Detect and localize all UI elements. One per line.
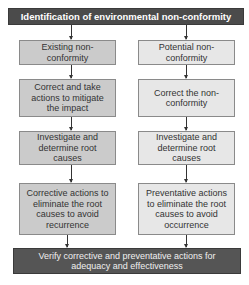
arrow-icon — [186, 65, 187, 78]
arrow-icon — [71, 165, 72, 182]
step-label: Investigate and determine root causes — [24, 132, 111, 164]
step-label: Corrective actions to eliminate the root… — [24, 188, 111, 230]
footer-verify: Verify corrective and preventative actio… — [13, 248, 241, 274]
box-correct-non-conformity: Correct the non-conformity — [138, 79, 235, 117]
box-existing-non-conformity: Existing non-conformity — [19, 40, 116, 65]
step-label: Potential non-conformity — [143, 42, 230, 63]
box-correct-mitigate: Correct and take actions to mitigate the… — [19, 79, 116, 117]
box-preventative-actions: Preventative actions to eliminate the ro… — [138, 183, 235, 235]
box-corrective-actions: Corrective actions to eliminate the root… — [19, 183, 116, 235]
box-potential-non-conformity: Potential non-conformity — [138, 40, 235, 65]
footer-text: Verify corrective and preventative actio… — [20, 251, 234, 271]
header-identification: Identification of environmental non-conf… — [8, 8, 244, 25]
arrow-icon — [67, 235, 68, 247]
arrow-icon — [186, 117, 187, 130]
step-label: Correct and take actions to mitigate the… — [24, 82, 111, 114]
arrow-icon — [186, 165, 187, 182]
step-label: Investigate and determine root causes — [143, 132, 230, 164]
arrow-icon — [71, 117, 72, 130]
step-label: Preventative actions to eliminate the ro… — [143, 188, 230, 230]
arrow-icon — [186, 235, 187, 247]
header-title: Identification of environmental non-conf… — [21, 11, 232, 22]
box-investigate-left: Investigate and determine root causes — [19, 131, 116, 165]
arrow-icon — [71, 65, 72, 78]
box-investigate-right: Investigate and determine root causes — [138, 131, 235, 165]
arrow-icon — [71, 25, 72, 39]
step-label: Correct the non-conformity — [143, 88, 230, 109]
arrow-icon — [186, 25, 187, 39]
step-label: Existing non-conformity — [24, 42, 111, 63]
